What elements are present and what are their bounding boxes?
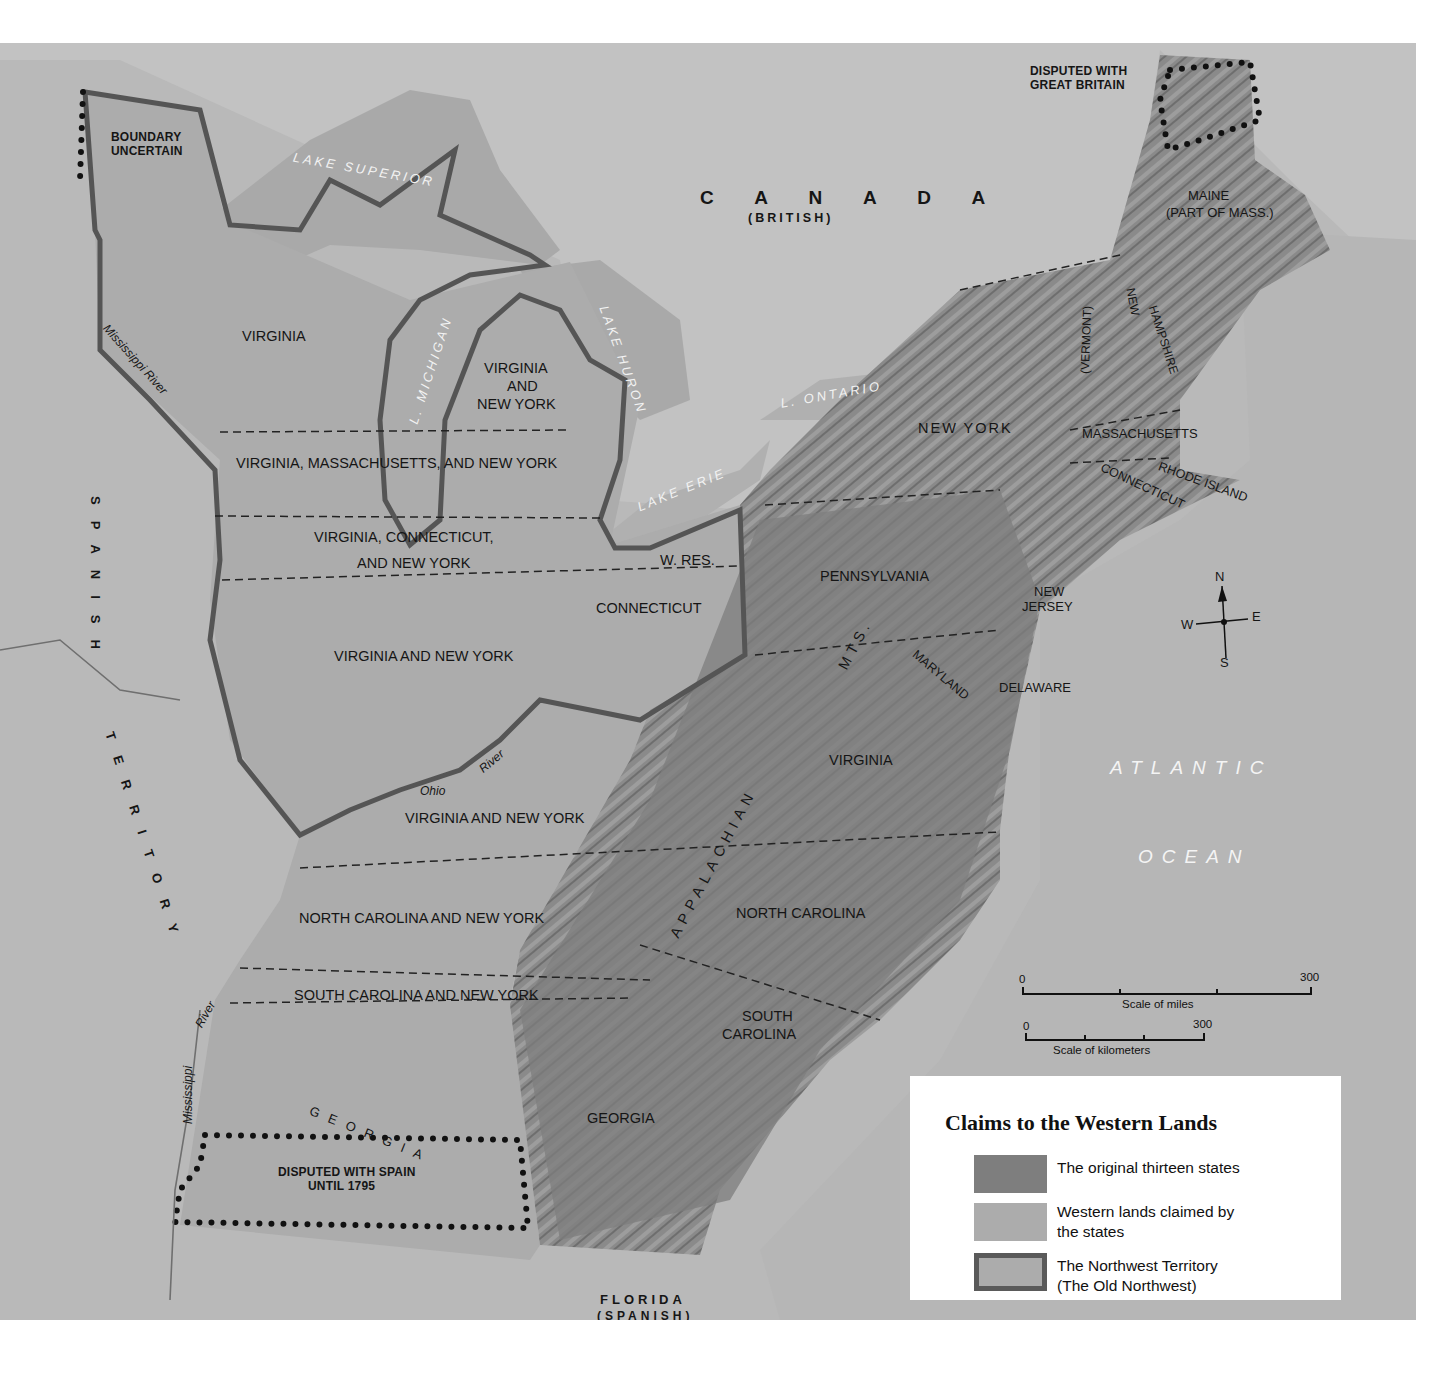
state-new-jersey-2: JERSEY <box>1022 600 1073 615</box>
label-atlantic: ATLANTIC <box>1110 757 1272 779</box>
claim-nc-ny: NORTH CAROLINA AND NEW YORK <box>299 910 544 927</box>
claim-va-ct-ny-1: VIRGINIA, CONNECTICUT, <box>314 529 494 546</box>
state-vermont: (VERMONT) <box>1079 306 1095 374</box>
label-disputed-gb-2: GREAT BRITAIN <box>1030 79 1125 93</box>
state-pennsylvania: PENNSYLVANIA <box>820 568 929 585</box>
claim-sc-ny: SOUTH CAROLINA AND NEW YORK <box>294 987 539 1004</box>
label-disputed-spain-2: UNTIL 1795 <box>308 1180 375 1194</box>
label-disputed-spain-1: DISPUTED WITH SPAIN <box>278 1166 416 1180</box>
compass-w: W <box>1181 618 1193 633</box>
claim-va-ct-ny-2: AND NEW YORK <box>357 555 470 572</box>
label-boundary-uncertain-2: UNCERTAIN <box>111 145 183 159</box>
scale-km-zero: 0 <box>1023 1020 1029 1032</box>
state-delaware: DELAWARE <box>999 681 1071 696</box>
claim-virginia-ny-1: VIRGINIA <box>484 360 548 377</box>
scale-miles-label: Scale of miles <box>1122 998 1194 1010</box>
legend-label-nw-territory-2: (The Old Northwest) <box>1057 1276 1197 1296</box>
scale-miles: 0 300 Scale of miles <box>1022 973 1322 1013</box>
legend-title: Claims to the Western Lands <box>945 1110 1217 1136</box>
state-south-carolina-1: SOUTH <box>742 1008 793 1025</box>
legend: Claims to the Western Lands The original… <box>910 1076 1341 1300</box>
legend-swatch-original-states <box>974 1155 1047 1193</box>
legend-label-original-states: The original thirteen states <box>1057 1158 1240 1178</box>
compass-s: S <box>1220 656 1229 671</box>
claim-virginia-ny-2: AND <box>507 378 538 395</box>
state-new-jersey-1: NEW <box>1034 585 1064 600</box>
legend-label-western-lands-1: Western lands claimed by <box>1057 1202 1234 1222</box>
label-florida: FLORIDA <box>600 1293 686 1308</box>
label-ocean: OCEAN <box>1138 846 1251 868</box>
claim-connecticut-wres: CONNECTICUT <box>596 600 702 617</box>
legend-swatch-nw-territory <box>974 1253 1047 1291</box>
state-south-carolina-2: CAROLINA <box>722 1026 796 1043</box>
scale-miles-zero: 0 <box>1019 973 1025 985</box>
legend-swatch-western-lands <box>974 1203 1047 1241</box>
claim-va-ma-ny: VIRGINIA, MASSACHUSETTS, AND NEW YORK <box>236 455 557 472</box>
label-ohio-1: Ohio <box>420 785 445 799</box>
label-mississippi-south-1: Mississippi <box>182 1066 196 1124</box>
state-maine-2: (PART OF MASS.) <box>1166 206 1274 221</box>
label-spanish: SPANISH <box>87 496 102 665</box>
claim-va-ny-kentucky: VIRGINIA AND NEW YORK <box>405 810 584 827</box>
label-disputed-gb-1: DISPUTED WITH <box>1030 65 1127 79</box>
scale-km-max: 300 <box>1193 1018 1212 1030</box>
legend-label-western-lands-2: the states <box>1057 1222 1124 1242</box>
state-new-york: NEW YORK <box>918 420 1013 437</box>
state-massachusetts: MASSACHUSETTS <box>1082 427 1198 442</box>
state-north-carolina: NORTH CAROLINA <box>736 905 865 922</box>
state-maine-1: MAINE <box>1188 189 1229 204</box>
scale-miles-max: 300 <box>1300 971 1319 983</box>
label-florida-sub: (SPANISH) <box>597 1310 693 1320</box>
compass-rose: N W E S <box>1178 568 1268 678</box>
label-boundary-uncertain-1: BOUNDARY <box>111 131 182 145</box>
compass-e: E <box>1252 610 1261 625</box>
state-virginia: VIRGINIA <box>829 752 893 769</box>
scale-kilometers: 0 300 Scale of kilometers <box>1025 1020 1225 1060</box>
compass-n: N <box>1215 570 1224 585</box>
state-georgia: GEORGIA <box>587 1110 655 1127</box>
label-canada-sub: (BRITISH) <box>748 211 833 225</box>
legend-label-nw-territory-1: The Northwest Territory <box>1057 1256 1218 1276</box>
label-canada: C A N A D A <box>700 187 1003 209</box>
claim-virginia-ny-3: NEW YORK <box>477 396 556 413</box>
label-w-res: W. RES. <box>660 552 715 569</box>
scale-km-label: Scale of kilometers <box>1053 1044 1150 1056</box>
claim-va-ny-central: VIRGINIA AND NEW YORK <box>334 648 513 665</box>
claim-virginia-nw: VIRGINIA <box>242 328 306 345</box>
